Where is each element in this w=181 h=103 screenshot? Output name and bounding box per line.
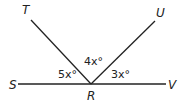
angle-srt-label: 5x°	[58, 68, 77, 81]
label-t: T	[22, 3, 31, 17]
angle-diagram: T U S V R 5x° 4x° 3x°	[0, 0, 181, 103]
angle-urv-label: 3x°	[111, 68, 130, 81]
label-r: R	[87, 89, 95, 103]
label-v: V	[168, 78, 177, 92]
label-s: S	[9, 78, 17, 92]
label-u: U	[156, 6, 165, 20]
angle-tru-label: 4x°	[84, 55, 103, 68]
